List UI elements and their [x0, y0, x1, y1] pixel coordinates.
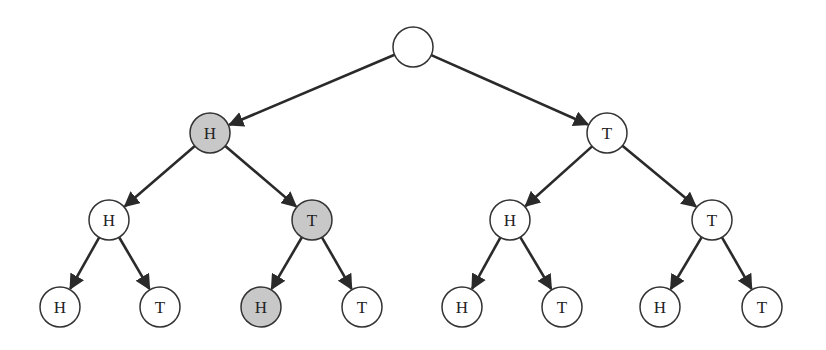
edge-arrow-t-to-th: [526, 146, 592, 206]
edge-arrow-root-to-h: [229, 55, 394, 125]
edge-arrow-t-to-tt: [622, 146, 695, 207]
node-label: H: [103, 211, 115, 230]
tree-node-t: T: [587, 113, 627, 153]
tree-node-ttt: T: [742, 287, 782, 327]
edge-arrow-root-to-t: [431, 55, 588, 124]
node-label: H: [204, 124, 216, 143]
edge-arrow-tt-to-tth: [671, 237, 702, 289]
node-label: H: [54, 298, 66, 317]
tree-node-hhh: H: [40, 287, 80, 327]
coin-flip-tree-diagram: HTHTHTHTHTHTHT: [0, 0, 826, 350]
tree-node-tt: T: [692, 200, 732, 240]
node-label: T: [557, 298, 568, 317]
edge-arrow-h-to-ht: [225, 146, 296, 206]
tree-node-hth: H: [241, 287, 281, 327]
node-label: H: [255, 298, 267, 317]
edge-arrow-h-to-hh: [125, 146, 195, 206]
node-label: H: [504, 211, 516, 230]
tree-node-hht: T: [140, 287, 180, 327]
node-label: H: [456, 298, 468, 317]
edge-arrow-hh-to-hhh: [70, 237, 99, 288]
node-label: T: [357, 298, 368, 317]
node-label: H: [654, 298, 666, 317]
node-label: T: [757, 298, 768, 317]
edge-arrow-ht-to-htt: [322, 237, 352, 288]
node-label: T: [602, 124, 613, 143]
edge-arrow-ht-to-hth: [272, 237, 302, 289]
edge-arrow-tt-to-ttt: [722, 237, 752, 288]
tree-canvas: HTHTHTHTHTHTHT: [0, 0, 826, 350]
node-label: T: [155, 298, 166, 317]
node-circle: [393, 27, 433, 67]
tree-node-hh: H: [89, 200, 129, 240]
edge-arrow-th-to-tht: [520, 237, 551, 289]
node-label: T: [707, 211, 718, 230]
nodes-group: HTHTHTHTHTHTHT: [40, 27, 782, 327]
node-label: T: [307, 211, 318, 230]
tree-node-h: H: [190, 113, 230, 153]
edge-arrow-hh-to-hht: [119, 237, 149, 289]
tree-node-ht: T: [292, 200, 332, 240]
tree-node-thh: H: [442, 287, 482, 327]
tree-node-tth: H: [640, 287, 680, 327]
edge-arrow-th-to-thh: [472, 238, 500, 289]
tree-node-root: [393, 27, 433, 67]
tree-node-htt: T: [342, 287, 382, 327]
tree-node-tht: T: [542, 287, 582, 327]
edges-group: [70, 55, 751, 289]
tree-node-th: H: [490, 200, 530, 240]
